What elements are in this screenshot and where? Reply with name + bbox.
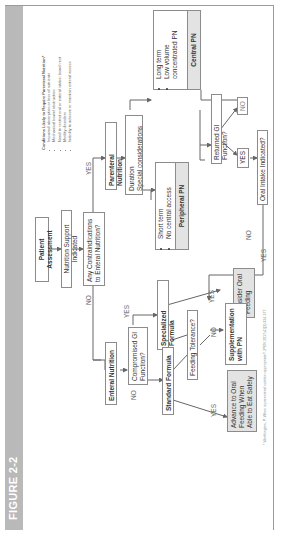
node-label: Patient Assessment <box>38 230 53 268</box>
node-label: Duration <box>128 119 136 191</box>
label-no: NO <box>85 295 92 305</box>
conditions-list: Conditions Likely to Require Parenteral … <box>41 10 72 150</box>
label-no: NO <box>210 327 217 337</box>
node-compromised-gi: Compromised GI Function? <box>128 327 148 385</box>
label-yes: YES <box>208 290 215 303</box>
label-yes: YES <box>85 162 92 175</box>
condition-item: Inability to achieve or maintain enteral… <box>67 10 72 142</box>
node-label: NO <box>239 101 246 111</box>
node-duration: Duration Special considerations <box>125 115 143 195</box>
node-contraindications: Any Contraindications to Enteral Nutriti… <box>83 212 105 286</box>
node-supplementation: Supplementation with PN <box>225 303 247 365</box>
node-label: Compromised GI Function? <box>131 332 146 381</box>
node-label: Supplementation with PN <box>228 308 243 361</box>
label-no: NO <box>245 230 252 240</box>
node-yes-returned: YES <box>237 148 249 168</box>
node-feeding-tolerance: Feeding Tolerance? <box>187 310 198 380</box>
node-enteral-nutrition: Enteral Nutrition <box>105 342 117 405</box>
node-bullet: Long term <box>155 13 163 79</box>
node-bullet: No central access <box>165 165 173 239</box>
node-label: Standard Formula <box>165 355 172 411</box>
node-label: Special considerations <box>136 119 144 191</box>
node-label: Advance to Oral Feeding When Able to Eat… <box>230 376 253 428</box>
node-label: Enteral Nutrition <box>108 350 115 401</box>
node-returned-gi: Returned GI Function? <box>211 94 222 164</box>
node-bullet: Low volume concentrated PN <box>163 13 179 79</box>
node-header: Peripheral PN <box>175 163 188 249</box>
node-bullet: Short term <box>157 165 165 239</box>
node-patient-assessment: Patient Assessment <box>35 217 49 282</box>
node-parenteral-nutrition: Parenteral Nutrition <box>105 122 117 190</box>
node-label: YES <box>239 151 246 164</box>
node-central-pn: Long term Low volume concentrated PN Cen… <box>153 10 201 90</box>
node-label: Feeding Tolerance? <box>189 319 196 376</box>
node-nutrition-support: Nutrition Support Indicated <box>61 210 72 288</box>
node-label: Any Contraindications to Enteral Nutriti… <box>86 219 101 282</box>
label-yes: YES <box>123 305 130 318</box>
rotated-figure: FIGURE 2-2 <box>0 0 284 535</box>
label-no: NO <box>130 390 137 400</box>
footnote: * Worthington, P. When is parenteral nut… <box>263 145 267 445</box>
node-advance-oral: Advance to Oral Feeding When Able to Eat… <box>227 370 257 432</box>
node-label: Parenteral Nutrition <box>108 154 123 186</box>
label-yes: YES <box>210 404 217 417</box>
figure-panel: FIGURE 2-2 <box>5 5 274 530</box>
node-no-returned: NO <box>237 97 248 115</box>
node-standard-formula: Standard Formula <box>162 347 174 415</box>
node-header: Central PN <box>187 11 200 89</box>
node-peripheral-pn: Short term No central access Peripheral … <box>155 162 189 250</box>
node-specialized-formula: Specialized Formula <box>157 280 169 350</box>
